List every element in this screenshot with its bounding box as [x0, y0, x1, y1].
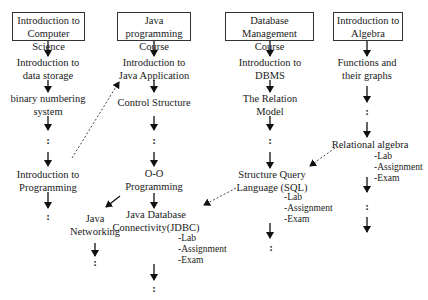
node-line2: Java Application [119, 69, 189, 82]
node-line1: Java [70, 212, 120, 225]
ellipsis-marker: : [46, 210, 50, 222]
ellipsis-marker: : [152, 134, 156, 146]
node-line1: Introduction to [119, 56, 189, 69]
header-line1: Java programming [120, 14, 188, 40]
header-dbms-course: Database Management Course [225, 12, 314, 41]
node-line2: their graphs [337, 69, 396, 82]
ellipsis-marker: : [152, 282, 156, 294]
activity-lab: -Lab [178, 233, 227, 244]
activity-exam: -Exam [374, 173, 423, 184]
header-line1: Introduction to [15, 14, 82, 27]
node-line1: binary numbering [11, 92, 86, 105]
activity-assignment: -Assignment [178, 244, 227, 255]
node-line1: O-O [125, 167, 183, 180]
ellipsis-marker: : [93, 256, 97, 268]
activity-assignment: -Assignment [284, 203, 333, 214]
node-binary-numbering: binary numbering system [11, 92, 86, 118]
ellipsis-marker: : [268, 134, 272, 146]
ellipsis-marker: : [269, 241, 273, 253]
node-jdbc: Java Database Connectivity(JDBC) [113, 208, 200, 234]
node-line2: Programming [17, 181, 80, 194]
node-line1: Java Database [113, 208, 200, 221]
node-sql: Structure Query Language (SQL) [237, 168, 308, 194]
node-line2: Programming [125, 180, 183, 193]
header-line1: Introduction to [336, 14, 400, 27]
header-line2: Algebra [336, 27, 400, 40]
node-line2: Networking [70, 225, 120, 238]
node-functions-graphs: Functions and their graphs [337, 56, 396, 82]
node-line1: Structure Query [237, 168, 308, 181]
activity-lab: -Lab [374, 151, 423, 162]
node-java-networking: Java Networking [70, 212, 120, 238]
ellipsis-marker: : [365, 105, 369, 117]
node-intro-java-app: Introduction to Java Application [119, 56, 189, 82]
algebra-activities: -Lab -Assignment -Exam [374, 151, 423, 184]
activity-exam: -Exam [284, 214, 333, 225]
header-intro-algebra: Introduction to Algebra [333, 12, 403, 41]
node-line1: Introduction to [239, 56, 302, 69]
activity-exam: -Exam [178, 255, 227, 266]
header-line2: Computer Science [15, 27, 82, 53]
activity-lab: -Lab [284, 192, 333, 203]
node-oo-programming: O-O Programming [125, 167, 183, 193]
node-control-structure: Control Structure [117, 96, 190, 109]
node-line2: DBMS [239, 69, 302, 82]
node-line1: Control Structure [117, 96, 190, 109]
ellipsis-marker: : [365, 200, 369, 212]
node-line2: data storage [17, 69, 80, 82]
header-intro-cs: Introduction to Computer Science [12, 12, 85, 41]
sql-activities: -Lab -Assignment -Exam [284, 192, 333, 225]
jdbc-activities: -Lab -Assignment -Exam [178, 233, 227, 266]
node-intro-dbms: Introduction to DBMS [239, 56, 302, 82]
header-line2: Course [228, 40, 311, 53]
node-intro-programming: Introduction to Programming [17, 168, 80, 194]
node-relation-model: The Relation Model [243, 92, 298, 118]
header-java-course: Java programming Course [117, 12, 191, 41]
ellipsis-marker: : [46, 134, 50, 146]
node-line2: Model [243, 105, 298, 118]
node-data-storage: Introduction to data storage [17, 56, 80, 82]
node-line1: Relational algebra [332, 138, 409, 151]
course-flow-diagram: Introduction to Computer Science Introdu… [0, 0, 428, 300]
header-line1: Database Management [228, 14, 311, 40]
node-line1: Introduction to [17, 168, 80, 181]
node-line1: Introduction to [17, 56, 80, 69]
node-line1: The Relation [243, 92, 298, 105]
header-line2: Course [120, 40, 188, 53]
node-relational-algebra: Relational algebra [332, 138, 409, 151]
node-line2: system [11, 105, 86, 118]
activity-assignment: -Assignment [374, 162, 423, 173]
node-line1: Functions and [337, 56, 396, 69]
